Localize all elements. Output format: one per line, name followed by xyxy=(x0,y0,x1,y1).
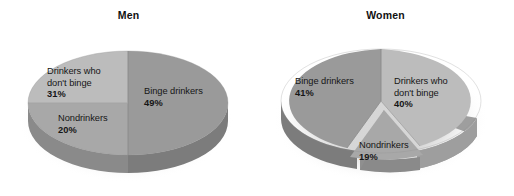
pie-svg-men xyxy=(0,0,257,196)
slice-label-binge-drinkers: Binge drinkers 41% xyxy=(295,76,354,99)
chart-panel-women: Women xyxy=(257,0,514,196)
slice-label-text: Binge drinkers xyxy=(295,76,354,86)
slice-label-binge-drinkers: Binge drinkers 49% xyxy=(144,86,203,109)
slice-label-nondrinkers: Nondrinkers 19% xyxy=(359,140,409,163)
chart-panel-men: Men xyxy=(0,0,257,196)
slice-label-text: Binge drinkers xyxy=(144,86,203,96)
slice-label-text-line1: Drinkers who xyxy=(394,76,448,86)
slice-label-percent: 49% xyxy=(144,98,163,108)
slice-label-drinkers-who-dont-binge: Drinkers who don't binge 31% xyxy=(47,66,101,101)
slice-label-text-line1: Drinkers who xyxy=(47,66,101,76)
slice-label-nondrinkers: Nondrinkers 20% xyxy=(58,113,108,136)
slice-label-percent: 19% xyxy=(359,152,378,162)
slice-label-percent: 20% xyxy=(58,125,77,135)
pie-stage-women: Binge drinkers 41% Drinkers who don't bi… xyxy=(257,0,514,196)
slice-label-percent: 41% xyxy=(295,88,314,98)
pie-stage-men: Binge drinkers 49% Drinkers who don't bi… xyxy=(0,0,257,196)
slice-label-percent: 40% xyxy=(394,99,413,109)
slice-label-text-line2: don't binge xyxy=(394,88,439,98)
slice-label-drinkers-who-dont-binge: Drinkers who don't binge 40% xyxy=(394,76,448,111)
slice-label-text: Nondrinkers xyxy=(359,140,409,150)
slice-label-percent: 31% xyxy=(47,89,66,99)
slice-label-text: Nondrinkers xyxy=(58,113,108,123)
slice-label-text-line2: don't binge xyxy=(47,78,92,88)
pie-chart-figure: Men xyxy=(0,0,514,196)
